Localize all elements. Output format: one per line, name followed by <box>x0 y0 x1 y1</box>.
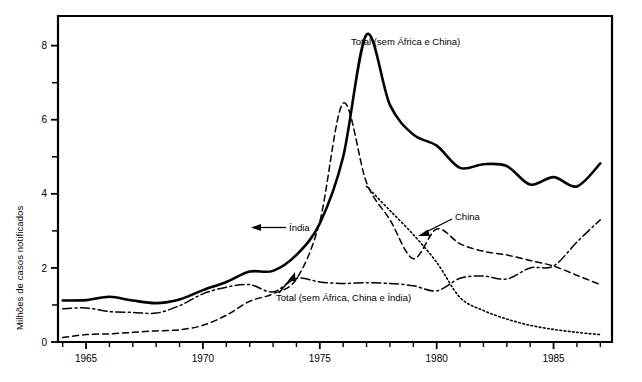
annotation-india: Índia <box>289 222 310 233</box>
x-tick-label: 1985 <box>542 353 565 364</box>
y-tick-label: 6 <box>41 114 47 125</box>
y-tick-label: 4 <box>41 188 47 199</box>
series-line-3 <box>367 186 601 334</box>
series-line-1 <box>63 34 601 303</box>
axes: 1965197019751980198502468 <box>41 16 612 364</box>
annotation-total-sem-africa-china-india: Total (sem África, China e Índia) <box>276 292 411 303</box>
annotation-china: China <box>455 211 481 222</box>
annotation-arrowhead-china <box>418 230 430 237</box>
line-chart: 1965197019751980198502468 Total (sem Áfr… <box>0 0 642 382</box>
annotation-total-sem-africa-china: Total (sem África e China) <box>351 36 460 47</box>
x-tick-label: 1975 <box>309 353 332 364</box>
x-tick-label: 1965 <box>75 353 98 364</box>
annotation-arrowhead-india <box>251 224 261 231</box>
y-tick-label: 0 <box>41 337 47 348</box>
x-tick-label: 1970 <box>192 353 215 364</box>
y-tick-label: 2 <box>41 263 47 274</box>
chart-figure: Milhões de casos notificados 19651970197… <box>0 0 642 382</box>
y-tick-label: 8 <box>41 40 47 51</box>
x-tick-label: 1980 <box>426 353 449 364</box>
